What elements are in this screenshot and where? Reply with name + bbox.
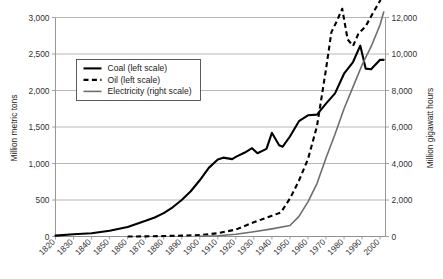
x-tick-label: 1880 <box>145 237 165 257</box>
x-tick-label: 1890 <box>163 237 183 257</box>
y-axis-title: Million metric tons <box>9 94 19 161</box>
y-tick-label: 2,000 <box>29 86 50 96</box>
x-axis-tick-labels: 1820183018401850186018701880189019001910… <box>37 237 382 257</box>
x-tick-label: 1940 <box>253 237 273 257</box>
line-chart: 05001,0001,5002,0002,5003,000 02,0004,00… <box>0 0 443 279</box>
y2-axis-tick-labels: 02,0004,0006,0008,00010,00012,000 <box>392 13 418 242</box>
y-tick-label: 1,000 <box>29 159 50 169</box>
y-tick-label: 1,500 <box>29 122 50 132</box>
series-line-electricity <box>200 12 384 236</box>
y-axis-tick-labels: 05001,0001,5002,0002,5003,000 <box>29 13 50 242</box>
x-tick-label: 1990 <box>343 237 363 257</box>
x-tick-label: 2000 <box>361 237 381 257</box>
series-line-oil <box>128 0 384 237</box>
legend-label: Electricity (right scale) <box>108 86 192 96</box>
x-tick-label: 1850 <box>91 237 111 257</box>
y2-tick-label: 8,000 <box>392 86 413 96</box>
y-tick-label: 2,500 <box>29 49 50 59</box>
x-tick-label: 1870 <box>127 237 147 257</box>
tick-marks-group <box>52 18 389 240</box>
x-tick-label: 1900 <box>181 237 201 257</box>
y2-tick-label: 6,000 <box>392 122 413 132</box>
y2-tick-label: 4,000 <box>392 159 413 169</box>
x-tick-label: 1970 <box>307 237 327 257</box>
data-series-group <box>56 0 384 237</box>
y2-tick-label: 12,000 <box>392 13 418 23</box>
legend-label: Coal (left scale) <box>108 63 168 73</box>
x-tick-label: 1830 <box>55 237 75 257</box>
x-tick-label: 1860 <box>109 237 129 257</box>
chart-legend: Coal (left scale)Oil (left scale)Electri… <box>77 60 201 101</box>
x-tick-label: 1910 <box>199 237 219 257</box>
y2-tick-label: 0 <box>392 232 397 242</box>
x-tick-label: 1980 <box>325 237 345 257</box>
y2-tick-label: 2,000 <box>392 195 413 205</box>
y2-axis-title: Million gigawatt hours <box>425 88 435 169</box>
gridlines-group <box>56 18 386 237</box>
x-tick-label: 1820 <box>37 237 57 257</box>
y2-tick-label: 10,000 <box>392 49 418 59</box>
y-tick-label: 500 <box>36 195 50 205</box>
y-tick-label: 3,000 <box>29 13 50 23</box>
x-tick-label: 1960 <box>289 237 309 257</box>
x-tick-label: 1840 <box>73 237 93 257</box>
x-tick-label: 1920 <box>217 237 237 257</box>
legend-label: Oil (left scale) <box>108 75 161 85</box>
x-tick-label: 1930 <box>235 237 255 257</box>
x-tick-label: 1950 <box>271 237 291 257</box>
chart-container: 05001,0001,5002,0002,5003,000 02,0004,00… <box>0 0 443 279</box>
